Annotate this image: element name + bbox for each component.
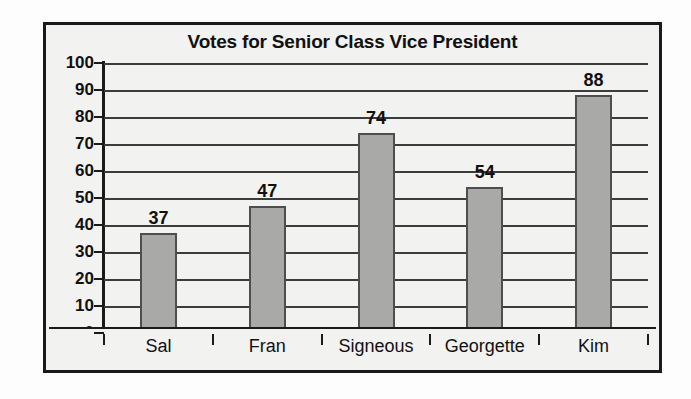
category-label-band: SalFranSigneousGeorgetteKim xyxy=(49,327,656,367)
y-axis-tick xyxy=(94,305,104,307)
y-axis-tick xyxy=(94,116,104,118)
y-axis-tick xyxy=(94,251,104,253)
x-axis-tick xyxy=(212,334,214,345)
chart-frame: Votes for Senior Class Vice President 10… xyxy=(43,22,662,373)
y-axis-tick xyxy=(94,278,104,280)
x-axis-tick xyxy=(647,334,649,345)
bar xyxy=(358,133,395,333)
bar-value-label: 47 xyxy=(237,182,297,200)
y-axis-tick xyxy=(94,224,104,226)
bar xyxy=(466,187,503,333)
y-axis-tick-label: 60 xyxy=(50,162,94,179)
bar-value-label: 54 xyxy=(455,163,515,181)
y-axis-tick xyxy=(94,89,104,91)
plot-area: 3747745488 xyxy=(104,63,648,333)
y-axis-tick-label: 20 xyxy=(50,270,94,287)
x-axis-tick xyxy=(429,334,431,345)
gridline xyxy=(104,63,648,65)
y-axis-tick-label: 80 xyxy=(50,108,94,125)
y-axis-labels: 1009080706050403020100 xyxy=(46,25,94,376)
y-axis-tick-label: 10 xyxy=(50,297,94,314)
y-axis-tick xyxy=(94,143,104,145)
y-axis-tick-label: 70 xyxy=(50,135,94,152)
y-axis-tick xyxy=(94,197,104,199)
chart-title: Votes for Senior Class Vice President xyxy=(46,31,659,53)
bar-value-label: 37 xyxy=(128,209,188,227)
y-axis-tick xyxy=(94,62,104,64)
bar xyxy=(575,95,612,333)
y-axis-tick xyxy=(94,170,104,172)
bar-value-label: 88 xyxy=(564,71,624,89)
x-axis-tick xyxy=(538,334,540,345)
y-axis-tick-label: 90 xyxy=(50,81,94,98)
bar xyxy=(249,206,286,333)
x-axis-category-label: Kim xyxy=(529,336,659,358)
x-axis-tick xyxy=(321,334,323,345)
y-axis-tick-label: 30 xyxy=(50,243,94,260)
y-axis-tick-label: 40 xyxy=(50,216,94,233)
bar xyxy=(140,233,177,333)
gridline xyxy=(104,90,648,92)
y-axis-tick-label: 50 xyxy=(50,189,94,206)
y-axis-tick-label: 100 xyxy=(50,54,94,71)
x-axis-tick xyxy=(103,334,105,345)
bar-value-label: 74 xyxy=(346,109,406,127)
